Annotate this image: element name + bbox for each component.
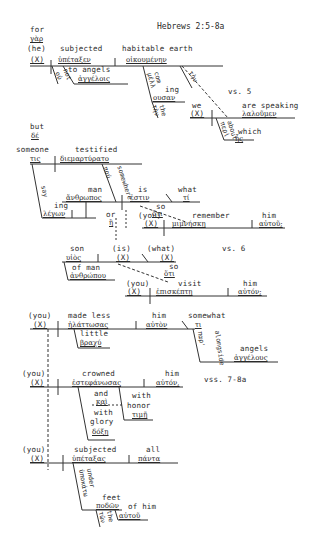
object-auton-7: αὐτόν; bbox=[238, 288, 262, 296]
pred-x-6: (X) bbox=[160, 254, 174, 262]
verse-label-6: vs. 6 bbox=[222, 245, 246, 253]
verb-subjected-10: subjected bbox=[74, 446, 116, 454]
subject-x-8: (X) bbox=[33, 321, 47, 329]
conj-gar: γὰρ bbox=[30, 35, 43, 43]
pobj-angelous: ἀγγέλους bbox=[234, 354, 268, 362]
conj-hoti-6: ὅτι bbox=[164, 270, 175, 278]
honor-with: with bbox=[132, 392, 151, 400]
adv-ti: τι bbox=[195, 321, 202, 329]
verb-mimneske: μιμνήσκῃ bbox=[172, 220, 206, 228]
io-to-angels: to angels bbox=[68, 66, 110, 74]
object-him-9: him bbox=[165, 370, 179, 378]
glory-with: with bbox=[94, 409, 113, 417]
subject-he: (he) bbox=[27, 45, 46, 53]
subject-x: (X) bbox=[30, 56, 44, 64]
prep-par: παρ' bbox=[196, 331, 205, 347]
pobj-feet: feet bbox=[102, 494, 121, 502]
honor-honor: honor bbox=[127, 402, 151, 410]
object-auton-9: αὐτόν, bbox=[156, 379, 180, 387]
subject-you-9: (you) bbox=[22, 370, 46, 378]
conj-for: for bbox=[30, 26, 44, 34]
subject-huios: υἱὸς bbox=[66, 254, 81, 262]
verb-hypetaxas: ὑπέταξας bbox=[72, 455, 106, 463]
verb-are-speaking: are speaking bbox=[242, 102, 299, 110]
conj-e: ἢ bbox=[109, 219, 113, 227]
conj-or: or bbox=[106, 211, 115, 219]
subject-tis: τις bbox=[30, 155, 41, 163]
verb-diemartyrato: διεμαρτύρατο bbox=[60, 155, 109, 163]
mod-brachu: βραχύ bbox=[80, 339, 101, 347]
mod-anthropou: ἀνθρώπου bbox=[70, 272, 106, 280]
rel-hes: ἧς bbox=[235, 135, 243, 143]
pred-what-6: (what) bbox=[147, 245, 175, 253]
subject-you-10: (you) bbox=[22, 446, 46, 454]
object-auton-8: αὐτὸν bbox=[146, 321, 167, 329]
subject-x-10: (X) bbox=[30, 455, 44, 463]
glory-glory: glory bbox=[90, 418, 114, 426]
verb-x-6: (X) bbox=[116, 254, 130, 262]
subject-man: man bbox=[88, 186, 102, 194]
object-panta: πάντα bbox=[138, 455, 160, 463]
ptc-legon: λέγων bbox=[43, 210, 65, 218]
conj-de: δέ bbox=[31, 132, 39, 140]
verb-elattosas: ἠλάττωσας bbox=[68, 321, 108, 329]
verb-estephanosas: ἐστεφάνωσας bbox=[72, 379, 121, 387]
adv-somewhat: somewhat bbox=[188, 312, 226, 320]
verb-is-6: (is) bbox=[112, 245, 131, 253]
ptc-ing: ing bbox=[165, 86, 179, 94]
mod-of-man: of man bbox=[72, 264, 100, 272]
subject-x-9: (X) bbox=[30, 379, 44, 387]
verb-hypetaxen: ὑπέταξεν bbox=[58, 56, 91, 64]
object-habitable-earth: habitable earth bbox=[122, 45, 193, 53]
subject-x-7: (X) bbox=[127, 288, 141, 296]
poss-of-him: of him bbox=[128, 503, 156, 511]
verb-is: is bbox=[138, 186, 147, 194]
verb-subjected: subjected bbox=[60, 45, 102, 53]
subject-x-5: (X) bbox=[144, 220, 158, 228]
subject-son: son bbox=[70, 245, 84, 253]
verb-made-less: made less bbox=[68, 312, 110, 320]
mod-little: little bbox=[80, 330, 108, 338]
verb-visit: visit bbox=[178, 280, 202, 288]
object-all: all bbox=[146, 446, 160, 454]
io-angelois: ἀγγέλοις bbox=[78, 75, 110, 83]
subject-we-x: (X) bbox=[190, 110, 204, 118]
art-ton: τῶν bbox=[97, 511, 106, 524]
ptc-ing-3: ing bbox=[54, 202, 68, 210]
object-autou: αὐτοῦ; bbox=[259, 220, 283, 228]
pobj-podon: ποδῶν bbox=[96, 502, 119, 510]
diagram-lines bbox=[0, 0, 320, 557]
object-him-8: him bbox=[152, 312, 166, 320]
pobj-angels: angels bbox=[240, 345, 268, 353]
pred-what: what bbox=[178, 186, 197, 194]
subject-anthropos: ἄνθρωπος bbox=[66, 194, 102, 202]
verb-testified: testified bbox=[75, 146, 117, 154]
verse-label-7-8a: vss. 7-8a bbox=[204, 376, 246, 384]
verb-crowned: crowned bbox=[82, 370, 115, 378]
object-oikoumenen: οἰκουμένην bbox=[126, 56, 167, 64]
verb-laloumen: λαλοῦμεν bbox=[242, 110, 277, 118]
object-him-5: him bbox=[262, 212, 276, 220]
poss-autou: αὐτοῦ bbox=[119, 512, 140, 520]
diagram-title: Hebrews 2:5-8a bbox=[157, 22, 224, 31]
ptc-say: say bbox=[39, 185, 48, 198]
verb-estin: ἐστιν bbox=[130, 194, 149, 202]
ptc-ousan: ουσαν bbox=[153, 94, 175, 102]
honor-time: τιμῇ bbox=[132, 411, 147, 419]
glory-doxe: δόξῃ bbox=[92, 428, 108, 436]
subject-you-8: (you) bbox=[28, 312, 52, 320]
conj-and: and bbox=[94, 390, 108, 398]
verb-episkepte: ἐπισκέπτῃ bbox=[156, 288, 193, 296]
pred-ti: τί bbox=[183, 194, 190, 202]
object-him-7: him bbox=[243, 280, 257, 288]
verse-label-5: vs. 5 bbox=[228, 88, 252, 96]
conj-kai: καὶ bbox=[96, 398, 108, 406]
conj-but: but bbox=[30, 123, 44, 131]
verb-remember: remember bbox=[192, 212, 230, 220]
subject-someone: someone bbox=[16, 146, 49, 154]
